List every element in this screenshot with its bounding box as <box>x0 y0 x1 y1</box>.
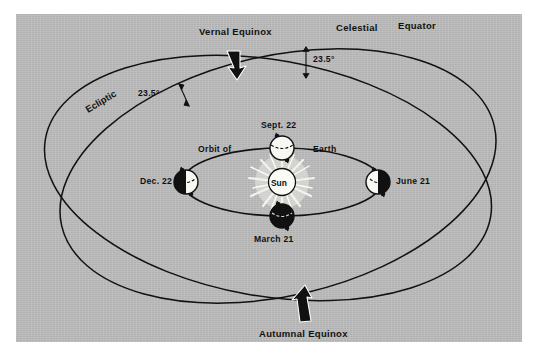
figure-root: Ecliptic Vernal Equinox Celestial Equato… <box>0 0 538 361</box>
label-autumnal-equinox: Autumnal Equinox <box>259 328 348 339</box>
label-sept-22: Sept. 22 <box>261 120 296 130</box>
label-tilt-left: 23.5° <box>138 88 160 98</box>
earth-globe-june-21 <box>366 167 390 197</box>
label-orbit-of: Orbit of <box>198 144 231 154</box>
label-march-21: March 21 <box>254 234 294 244</box>
label-tilt-right: 23.5° <box>313 54 335 64</box>
vernal-equinox-arrow <box>227 51 246 80</box>
tilt-indicator-left <box>179 84 189 106</box>
tilt-indicator-right <box>303 47 308 78</box>
ecliptic-label: Ecliptic <box>83 88 118 115</box>
label-equator: Equator <box>398 20 436 31</box>
label-celestial: Celestial <box>336 22 378 33</box>
label-sun: Sun <box>271 178 287 188</box>
label-dec-22: Dec. 22 <box>140 176 172 186</box>
label-vernal-equinox: Vernal Equinox <box>199 26 272 37</box>
label-june-21: June 21 <box>396 176 430 186</box>
autumnal-equinox-arrow <box>292 285 312 322</box>
earth-globe-dec-22 <box>174 167 198 197</box>
diagram-canvas: Ecliptic <box>0 0 538 361</box>
label-earth: Earth <box>313 144 336 154</box>
